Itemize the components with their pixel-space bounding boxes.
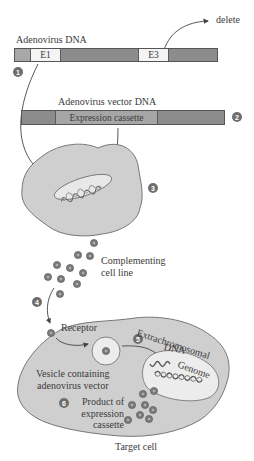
diagram-artwork <box>0 0 254 461</box>
step-1-badge: 1 <box>13 67 23 77</box>
product-label: Product of expression cassette <box>72 396 124 431</box>
adenovirus-dna-bar: E1 E3 <box>14 48 218 62</box>
segment-e3: E3 <box>139 49 169 61</box>
step-4-badge: 4 <box>32 297 42 307</box>
target-cell-caption: Target cell <box>115 441 157 453</box>
segment-e1: E1 <box>31 49 61 61</box>
infection-arrow <box>47 288 54 323</box>
delete-label: delete <box>216 14 240 26</box>
expression-cassette: Expression cassette <box>56 111 158 124</box>
virus-particles-released <box>44 239 97 297</box>
vector-dna-title: Adenovirus vector DNA <box>58 96 156 108</box>
vector-dna-bar: Expression cassette <box>21 110 225 125</box>
vector-right <box>158 111 224 124</box>
receptor-label: Receptor <box>61 322 97 334</box>
step-2-badge: 2 <box>232 112 242 122</box>
segment-right <box>169 49 217 61</box>
step-3-badge: 3 <box>148 183 158 193</box>
step-6-badge: 6 <box>59 398 69 408</box>
delete-arrow <box>164 21 208 50</box>
segment-middle <box>61 49 139 61</box>
segment-left <box>15 49 31 61</box>
vector-left <box>22 111 56 124</box>
adenovirus-dna-title: Adenovirus DNA <box>16 34 87 46</box>
complementing-label: Complementing cell line <box>101 255 165 278</box>
vesicle-label: Vesicle containing adenovirus vector <box>36 368 110 391</box>
